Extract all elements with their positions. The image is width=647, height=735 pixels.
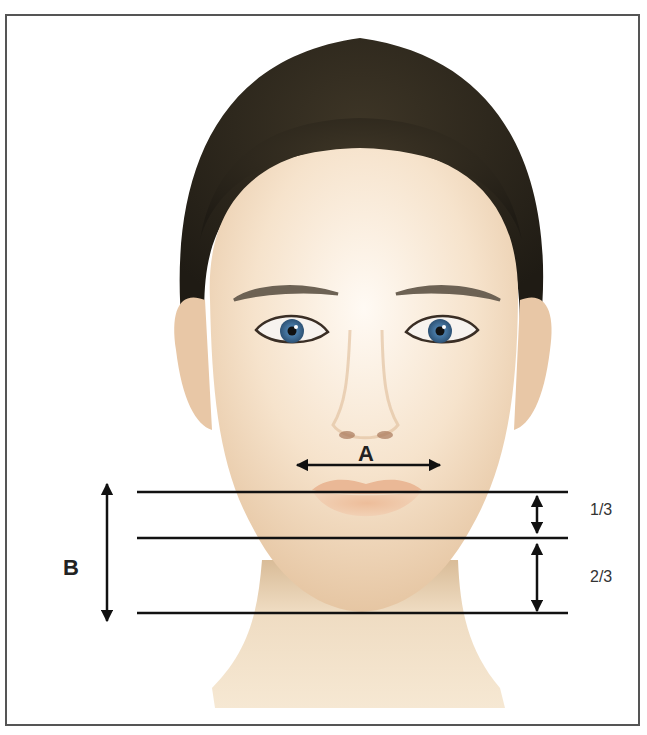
left-ear <box>174 297 212 430</box>
right-ear <box>514 297 552 430</box>
face-illustration <box>0 0 647 735</box>
label-a: A <box>358 441 374 467</box>
label-one-third: 1/3 <box>590 501 612 519</box>
label-two-thirds: 2/3 <box>590 568 612 586</box>
face <box>210 145 518 612</box>
label-b: B <box>63 555 79 581</box>
